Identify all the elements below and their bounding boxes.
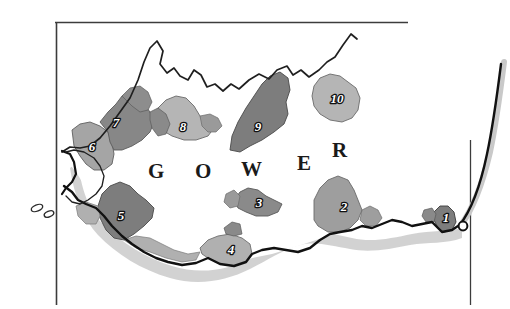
islet-rock-a — [30, 203, 43, 213]
gower-peninsula-map: G O W E R 1 1 2 2 3 3 4 4 — [0, 0, 510, 309]
svg-text:6: 6 — [89, 139, 96, 154]
svg-text:3: 3 — [255, 195, 263, 210]
svg-text:1: 1 — [443, 210, 450, 225]
region-label-2: 2 2 — [340, 199, 348, 214]
wordmark-letter-r: R — [332, 138, 348, 162]
map-canvas: G O W E R 1 1 2 2 3 3 4 4 — [0, 0, 510, 309]
region-label-7: 7 7 — [113, 115, 120, 130]
wordmark-letter-w: W — [241, 157, 262, 181]
east-bay-coastline — [459, 62, 504, 230]
offshore-islets — [30, 203, 54, 219]
region-label-10: 10 10 — [331, 91, 345, 106]
svg-text:2: 2 — [340, 199, 348, 214]
region-label-3: 3 3 — [255, 195, 263, 210]
region-label-9: 9 9 — [255, 119, 262, 134]
region-label-5: 5 5 — [118, 208, 125, 223]
wordmark-letter-e: E — [297, 151, 311, 175]
svg-text:10: 10 — [331, 91, 345, 106]
svg-text:5: 5 — [118, 208, 125, 223]
svg-text:8: 8 — [180, 119, 187, 134]
region-label-1: 1 1 — [443, 210, 450, 225]
estuary-node — [459, 222, 468, 231]
region-label-4: 4 4 — [227, 242, 235, 257]
svg-text:7: 7 — [113, 115, 120, 130]
wordmark-letter-o: O — [195, 159, 211, 183]
wordmark-letter-g: G — [148, 159, 164, 183]
region-label-6: 6 6 — [89, 139, 96, 154]
islet-rock-b — [43, 210, 54, 219]
svg-text:9: 9 — [255, 119, 262, 134]
svg-text:4: 4 — [227, 242, 235, 257]
region-label-8: 8 8 — [180, 119, 187, 134]
